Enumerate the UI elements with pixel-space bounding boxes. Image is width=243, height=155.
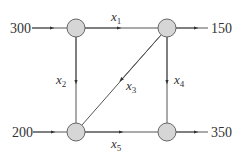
edge-label-x3: x3	[125, 78, 137, 95]
external-output-150: 150	[176, 21, 232, 36]
edge-x4: x4	[167, 37, 185, 123]
node-top-left	[67, 19, 85, 37]
edge-x5: x5	[85, 132, 158, 153]
edge-label-x4: x4	[173, 72, 185, 89]
flow-value-150: 150	[211, 21, 232, 36]
flow-value-300: 300	[10, 21, 31, 36]
edge-x3: x3	[82, 35, 161, 125]
flow-value-350: 350	[211, 125, 232, 140]
node-bottom-left	[67, 123, 85, 141]
edge-x2: x2	[55, 37, 76, 123]
flow-value-200: 200	[12, 125, 33, 140]
node-top-right	[158, 19, 176, 37]
external-input-300: 300	[10, 21, 67, 36]
flow-network-diagram: 300 150 200 350 x1 x2 x3	[0, 0, 243, 155]
edge-label-x1: x1	[110, 9, 121, 26]
node-bottom-right	[158, 123, 176, 141]
external-input-200: 200	[12, 125, 67, 140]
external-output-350: 350	[176, 125, 232, 140]
edge-label-x2: x2	[55, 72, 66, 89]
edge-label-x5: x5	[110, 136, 122, 153]
edge-x1: x1	[85, 9, 158, 28]
